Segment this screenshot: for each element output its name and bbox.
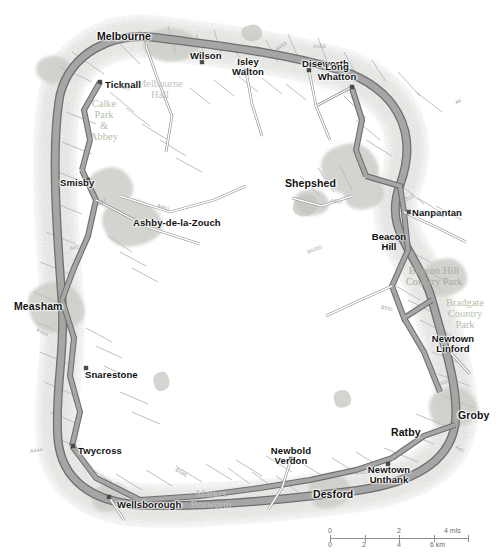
scale-miles-max: 4 mls — [444, 527, 461, 534]
settlement-marker — [98, 80, 102, 84]
settlement-marker — [107, 495, 111, 499]
scale-km-0: 0 — [328, 541, 332, 548]
settlement-marker — [447, 349, 451, 353]
scale-miles-2: 2 — [397, 527, 401, 534]
scale-km-max: 6 km — [430, 541, 445, 548]
scale-miles-0: 0 — [328, 527, 332, 534]
map-canvas — [0, 0, 503, 559]
scale-bar: 0 2 4 mls 0 2 4 6 km — [322, 525, 477, 553]
settlement-marker — [289, 457, 293, 461]
settlement-marker — [307, 68, 311, 72]
scale-tick — [468, 535, 469, 542]
map-container[interactable]: Melbourne HallCalke Park & AbbeyBeacon H… — [0, 0, 503, 559]
settlement-marker — [386, 462, 390, 466]
scale-km-2: 2 — [362, 541, 366, 548]
settlement-marker — [84, 366, 88, 370]
settlement-marker — [86, 178, 90, 182]
scale-km-4: 4 — [397, 541, 401, 548]
settlement-marker — [407, 210, 411, 214]
settlement-marker — [71, 444, 75, 448]
settlement-marker — [200, 60, 204, 64]
settlement-marker — [350, 85, 354, 89]
settlement-marker — [244, 69, 248, 73]
